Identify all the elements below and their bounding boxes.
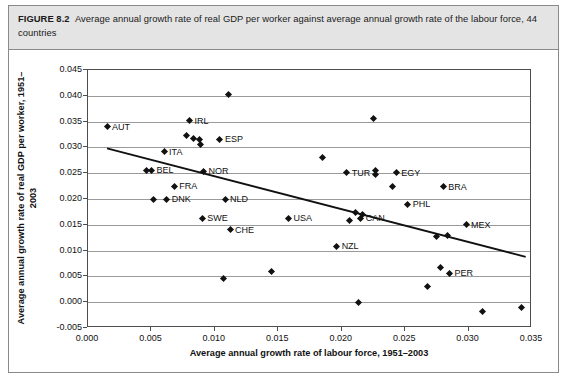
x-axis-tick-label: 0.020	[329, 333, 352, 343]
y-axis-tick-label: 0.010	[36, 245, 82, 255]
data-point-label: FRA	[179, 181, 197, 191]
y-axis-tick-mark	[83, 198, 87, 199]
plot-frame: AUTIRLITABELFRAESPNORDNKNLDSWECHEUSANZLT…	[87, 69, 531, 327]
y-axis-tick-mark	[83, 224, 87, 225]
data-point-label: AUT	[112, 122, 130, 132]
data-point-label: CAN	[366, 213, 385, 223]
chart-canvas: Average annual growth rate of real GDP p…	[9, 50, 558, 372]
figure-caption: FIGURE 8.2 Average annual growth rate of…	[18, 12, 549, 40]
y-axis-tick-mark	[83, 327, 87, 328]
y-axis-tick-label: 0.025	[36, 167, 82, 177]
x-axis-tick-mark	[150, 327, 151, 331]
x-axis-tick-label: 0.015	[266, 333, 289, 343]
x-axis-tick-mark	[404, 327, 405, 331]
y-axis-tick-mark	[83, 172, 87, 173]
x-axis-tick-mark	[214, 327, 215, 331]
y-axis-tick-mark	[83, 95, 87, 96]
x-axis-tick-mark	[341, 327, 342, 331]
x-axis-tick-mark	[468, 327, 469, 331]
data-point-label: EGY	[401, 168, 420, 178]
data-point-label: ESP	[225, 134, 243, 144]
y-axis-tick-label: 0.030	[36, 141, 82, 151]
x-axis-tick-label: 0.000	[76, 333, 99, 343]
data-point-label: MEX	[471, 220, 491, 230]
data-point-label: SWE	[207, 213, 228, 223]
data-point-label: DNK	[172, 194, 191, 204]
figure-container: FIGURE 8.2 Average annual growth rate of…	[8, 5, 559, 373]
data-point-label: BRA	[448, 182, 467, 192]
y-axis-tick-label: -0.005	[36, 322, 82, 332]
data-point-label: BEL	[156, 165, 173, 175]
y-axis-tick-mark	[83, 69, 87, 70]
data-point-label: ITA	[169, 147, 182, 157]
figure-caption-text: Average annual growth rate of real GDP p…	[18, 13, 537, 38]
chart-area: Average annual growth rate of real GDP p…	[9, 50, 558, 372]
data-point-label: PHL	[413, 199, 431, 209]
data-point-label: PER	[455, 268, 474, 278]
y-axis-tick-mark	[83, 301, 87, 302]
y-axis-tick-label: 0.035	[36, 116, 82, 126]
x-axis-title: Average annual growth rate of labour for…	[87, 348, 531, 358]
y-axis-tick-mark	[83, 146, 87, 147]
y-axis-tick-mark	[83, 250, 87, 251]
y-axis-tick-mark	[83, 275, 87, 276]
x-axis-tick-label: 0.035	[520, 333, 543, 343]
y-axis-tick-label: 0.000	[36, 296, 82, 306]
y-axis-tick-label: 0.040	[36, 90, 82, 100]
x-axis-tick-label: 0.005	[139, 333, 162, 343]
x-axis-tick-label: 0.030	[456, 333, 479, 343]
y-axis-tick-label: 0.005	[36, 270, 82, 280]
data-point-label: NZL	[342, 241, 359, 251]
y-axis-tick-mark	[83, 121, 87, 122]
x-axis-tick-label: 0.025	[393, 333, 416, 343]
data-point-label: NOR	[208, 166, 228, 176]
figure-caption-bar: FIGURE 8.2 Average annual growth rate of…	[9, 6, 558, 50]
data-point-label: IRL	[194, 116, 208, 126]
x-axis-tick-label: 0.010	[203, 333, 226, 343]
data-point-label: NLD	[230, 194, 248, 204]
data-point-label: CHE	[235, 225, 254, 235]
y-axis-tick-label: 0.015	[36, 219, 82, 229]
y-axis-tick-label: 0.045	[36, 64, 82, 74]
figure-label: FIGURE 8.2	[18, 13, 70, 24]
data-point-label: USA	[293, 213, 312, 223]
y-axis-tick-label: 0.020	[36, 193, 82, 203]
data-point-label: TUR	[352, 168, 371, 178]
x-axis-tick-mark	[277, 327, 278, 331]
